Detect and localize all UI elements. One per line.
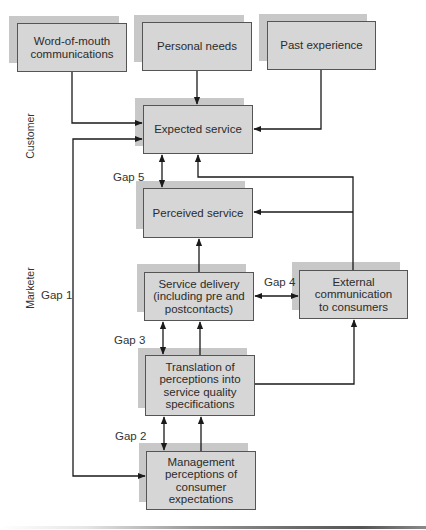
gap-5-label: Gap 5 [113,171,144,183]
box-service-delivery-label: Service delivery (including pre and post… [153,278,245,316]
box-perceived-service: Perceived service [143,188,253,238]
box-management-perceptions: Management perceptions of consumer expec… [146,451,256,510]
box-translation: Translation of perceptions into service … [145,355,255,416]
marketer-side-label: Marketer [24,264,36,312]
box-management-perceptions-label: Management perceptions of consumer expec… [162,456,240,506]
gap-1-label: Gap 1 [41,289,72,301]
gap-2-label: Gap 2 [115,430,146,442]
customer-side-label: Customer [24,110,36,162]
box-past-experience: Past experience [267,21,376,70]
box-expected-service: Expected service [143,105,253,154]
box-translation-label: Translation of perceptions into service … [156,361,244,411]
gap-3-label: Gap 3 [114,334,145,346]
box-word-of-mouth-label: Word-of-mouth communications [27,35,117,60]
bottom-rule [0,526,426,529]
box-word-of-mouth: Word-of-mouth communications [17,23,127,72]
gap-4-label: Gap 4 [264,276,295,288]
box-personal-needs: Personal needs [142,22,252,71]
box-past-experience-label: Past experience [280,39,362,52]
box-service-delivery: Service delivery (including pre and post… [144,272,254,321]
box-expected-service-label: Expected service [154,123,242,136]
box-perceived-service-label: Perceived service [153,207,244,220]
box-external-communication-label: External communication to consumers [309,276,399,314]
box-external-communication: External communication to consumers [299,270,408,319]
box-personal-needs-label: Personal needs [157,40,237,53]
